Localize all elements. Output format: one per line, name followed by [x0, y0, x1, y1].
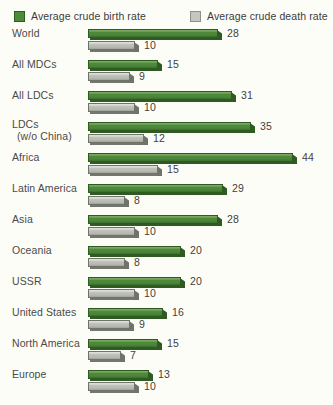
bar-value-label: 15 [167, 337, 179, 349]
chart-row: All LDCs3110 [0, 90, 333, 121]
bar-face [88, 134, 144, 143]
bar-bottom-edge [90, 69, 160, 71]
bar-body [88, 370, 149, 379]
bar-bottom-edge [90, 286, 183, 288]
bar-face [88, 289, 135, 298]
bar-body [88, 215, 218, 224]
bar-face [88, 122, 251, 131]
legend-item-birth-rate: Average crude birth rate [14, 10, 146, 22]
bar-end-cap [180, 247, 185, 257]
bar-face [88, 196, 125, 205]
bar-body [88, 134, 144, 143]
row-label: All MDCs [12, 59, 86, 71]
bar-face [88, 382, 135, 391]
bar-value-label: 20 [190, 244, 202, 256]
bar-bottom-edge [90, 360, 123, 362]
bar-body [88, 308, 163, 317]
bar-bottom-edge [90, 174, 160, 176]
bar-end-cap [129, 73, 134, 83]
bar-end-cap [134, 228, 139, 238]
bar-body [88, 277, 181, 286]
bar-bottom-edge [90, 193, 225, 195]
row-label-line1: Asia [12, 213, 33, 225]
bar-end-cap [250, 123, 255, 133]
chart-row: All MDCs159 [0, 59, 333, 90]
bar-end-cap [222, 185, 227, 195]
bar-end-cap [157, 61, 162, 71]
legend-label-death-rate: Average crude death rate [207, 10, 328, 22]
chart-legend: Average crude birth rate Average crude d… [0, 10, 333, 28]
bar-face [88, 72, 130, 81]
row-label-line1: All MDCs [12, 58, 57, 70]
bar-value-label: 16 [172, 306, 184, 318]
bar-body [88, 29, 218, 38]
chart-row: United States169 [0, 307, 333, 338]
row-label: World [12, 28, 86, 40]
bar-bottom-edge [90, 131, 253, 133]
bar-end-cap [134, 290, 139, 300]
bar-end-cap [217, 30, 222, 40]
bar-face [88, 60, 158, 69]
chart-row: Asia2810 [0, 214, 333, 245]
bar-end-cap [120, 352, 125, 362]
bar-face [88, 184, 223, 193]
gray-swatch-icon [190, 11, 201, 22]
bar-body [88, 122, 251, 131]
bar-value-label: 9 [139, 70, 145, 82]
bar-face [88, 165, 158, 174]
bar-bottom-edge [90, 162, 295, 164]
bar-end-cap [134, 104, 139, 114]
bar-value-label: 35 [260, 120, 272, 132]
bar-bottom-edge [90, 100, 234, 102]
chart-row: Africa4415 [0, 152, 333, 183]
row-label-line1: Latin America [12, 182, 77, 194]
row-label-line1: Europe [12, 368, 46, 380]
legend-label-birth-rate: Average crude birth rate [31, 10, 146, 22]
bar-body [88, 103, 135, 112]
bar-end-cap [134, 42, 139, 52]
chart-row: World2810 [0, 28, 333, 59]
bar-body [88, 382, 135, 391]
bar-body [88, 320, 130, 329]
row-label: Africa [12, 152, 86, 164]
bar-bottom-edge [90, 50, 137, 52]
bar-face [88, 153, 293, 162]
bar-bottom-edge [90, 236, 137, 238]
bar-value-label: 10 [144, 225, 156, 237]
bar-face [88, 41, 135, 50]
bar-value-label: 10 [144, 380, 156, 392]
bar-bottom-edge [90, 205, 127, 207]
bar-face [88, 339, 158, 348]
row-label: LDCs(w/o China) [12, 119, 86, 142]
row-label-line1: Africa [12, 151, 39, 163]
bar-value-label: 31 [241, 89, 253, 101]
bar-value-label: 7 [130, 349, 136, 361]
bar-bottom-edge [90, 298, 137, 300]
row-label: North America [12, 338, 86, 350]
bar-end-cap [180, 278, 185, 288]
bar-bottom-edge [90, 317, 165, 319]
bar-end-cap [129, 321, 134, 331]
bar-body [88, 153, 293, 162]
bar-body [88, 246, 181, 255]
row-label-line1: United States [12, 306, 76, 318]
green-swatch-icon [14, 11, 25, 22]
row-label-line1: USSR [12, 275, 42, 287]
bar-end-cap [134, 383, 139, 393]
bar-end-cap [143, 135, 148, 145]
row-label: Asia [12, 214, 86, 226]
bar-face [88, 103, 135, 112]
bar-value-label: 8 [134, 194, 140, 206]
bar-bottom-edge [90, 267, 127, 269]
row-label-line1: Oceania [12, 244, 52, 256]
bar-face [88, 351, 121, 360]
chart-row: Europe1310 [0, 369, 333, 400]
bar-bottom-edge [90, 81, 132, 83]
bar-end-cap [157, 340, 162, 350]
bar-end-cap [292, 154, 297, 164]
bar-face [88, 370, 149, 379]
row-label: Latin America [12, 183, 86, 195]
bar-body [88, 91, 232, 100]
population-rates-bar-chart: Average crude birth rate Average crude d… [0, 0, 333, 405]
bar-bottom-edge [90, 329, 132, 331]
